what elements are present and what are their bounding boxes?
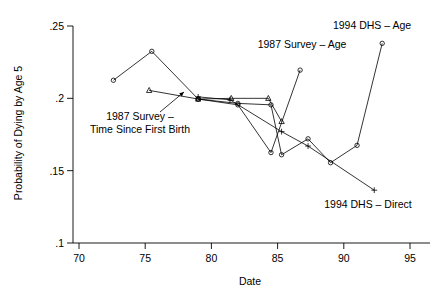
series-line bbox=[113, 51, 300, 152]
x-tick-label: 95 bbox=[404, 252, 416, 264]
chart-container: 707580859095 .1.15.2.25 1987 Survey –Tim… bbox=[0, 0, 438, 292]
scatter-line-chart: 707580859095 .1.15.2.25 1987 Survey –Tim… bbox=[0, 0, 438, 292]
x-tick-label: 75 bbox=[139, 252, 151, 264]
annot-1987-survey-tsfb: 1987 Survey –Time Since First Birth bbox=[90, 110, 190, 135]
data-point-marker bbox=[147, 87, 152, 92]
y-axis-title: Probability of Dying by Age 5 bbox=[12, 66, 24, 200]
y-tick-label: .2 bbox=[55, 92, 64, 104]
x-tick-label: 90 bbox=[338, 252, 350, 264]
annot-1987-survey-age: 1987 Survey – Age bbox=[258, 38, 347, 50]
data-point-marker bbox=[266, 95, 271, 100]
y-tick-label: .15 bbox=[49, 165, 64, 177]
x-axis-title: Date bbox=[239, 275, 261, 287]
series-line bbox=[198, 97, 374, 190]
x-tick-label: 70 bbox=[73, 252, 85, 264]
y-axis-ticks: .1.15.2.25 bbox=[49, 20, 73, 249]
x-tick-label: 80 bbox=[206, 252, 218, 264]
annot-1994-dhs-age: 1994 DHS – Age bbox=[333, 19, 411, 31]
annot-1994-dhs-direct: 1994 DHS – Direct bbox=[324, 198, 412, 210]
y-tick-label: .1 bbox=[55, 237, 64, 249]
y-tick-label: .25 bbox=[49, 20, 64, 32]
x-tick-label: 85 bbox=[272, 252, 284, 264]
series-1987-survey-age bbox=[111, 49, 302, 155]
chart-annotations-group: 1987 Survey –Time Since First Birth1987 … bbox=[90, 19, 412, 210]
annotation-leader-line bbox=[160, 92, 184, 112]
x-axis-ticks: 707580859095 bbox=[73, 243, 416, 264]
